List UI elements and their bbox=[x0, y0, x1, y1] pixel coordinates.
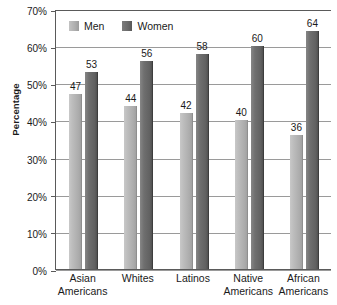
x-axis-labels: AsianAmericansWhitesLatinosNativeAmerica… bbox=[55, 272, 331, 305]
bar-chart: Percentage 0%10%20%30%40%50%60%70% Men W… bbox=[0, 0, 337, 305]
y-axis-title: Percentage bbox=[10, 55, 21, 165]
bar-value-label: 47 bbox=[70, 81, 81, 92]
bar-group: 4258 bbox=[180, 10, 209, 269]
bar-value-label: 53 bbox=[86, 59, 97, 70]
bar-men: 40 bbox=[235, 120, 248, 269]
bar-women: 64 bbox=[306, 31, 319, 269]
bar-value-label: 58 bbox=[196, 41, 207, 52]
bar-value-label: 44 bbox=[125, 93, 136, 104]
bar-men: 36 bbox=[290, 135, 303, 269]
y-tick-label: 20% bbox=[27, 191, 47, 202]
plot-area: 0%10%20%30%40%50%60%70% Men Women 475344… bbox=[55, 10, 331, 270]
bar-women: 58 bbox=[196, 54, 209, 269]
bar-men: 44 bbox=[124, 106, 137, 269]
y-tick-label: 40% bbox=[27, 117, 47, 128]
x-axis-tick-label: NativeAmericans bbox=[223, 272, 273, 297]
bar-women: 60 bbox=[251, 46, 264, 269]
y-tick-label: 50% bbox=[27, 80, 47, 91]
bar-value-label: 64 bbox=[307, 18, 318, 29]
bar-group: 4753 bbox=[69, 10, 98, 269]
gridline: 0% bbox=[56, 270, 331, 271]
bar-men: 42 bbox=[180, 113, 193, 269]
x-axis-tick-label: Latinos bbox=[176, 272, 210, 285]
x-axis-tick-label: Whites bbox=[122, 272, 154, 285]
bar-value-label: 42 bbox=[180, 100, 191, 111]
bar-groups: 47534456425840603664 bbox=[56, 10, 331, 269]
y-tick-label: 30% bbox=[27, 154, 47, 165]
bar-value-label: 56 bbox=[141, 48, 152, 59]
x-axis-tick-label: AfricanAmericans bbox=[279, 272, 329, 297]
bar-value-label: 40 bbox=[236, 107, 247, 118]
bar-women: 56 bbox=[140, 61, 153, 269]
bar-men: 47 bbox=[69, 94, 82, 269]
bar-women: 53 bbox=[85, 72, 98, 269]
bar-group: 4060 bbox=[235, 10, 264, 269]
bar-value-label: 36 bbox=[291, 122, 302, 133]
y-tick-label: 70% bbox=[27, 6, 47, 17]
x-axis-tick-label: AsianAmericans bbox=[58, 272, 108, 297]
y-tick-label: 10% bbox=[27, 228, 47, 239]
bar-group: 3664 bbox=[290, 10, 319, 269]
bar-group: 4456 bbox=[124, 10, 153, 269]
y-tick-label: 60% bbox=[27, 43, 47, 54]
y-tick-label: 0% bbox=[33, 266, 47, 277]
bar-value-label: 60 bbox=[252, 33, 263, 44]
